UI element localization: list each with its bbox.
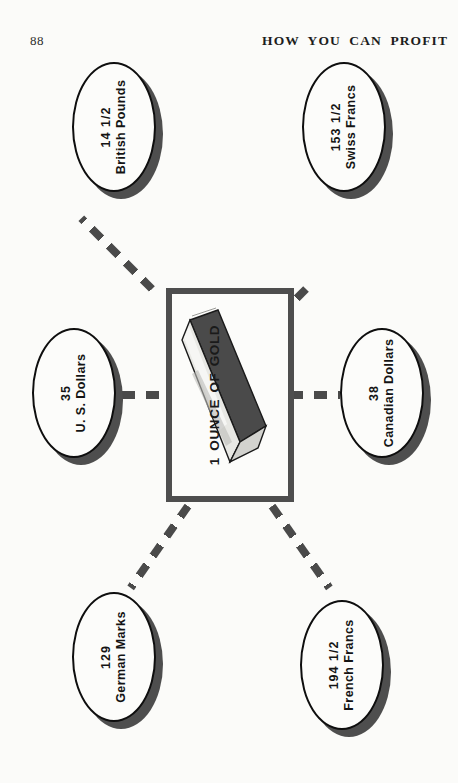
dash-stroke [290,391,340,399]
currency-name: U. S. Dollars [74,354,89,433]
currency-node-text: 153 1/2 Swiss Francs [329,85,359,170]
connector-left [122,391,170,399]
dash-stroke [269,504,333,591]
currency-node-text: 35 U. S. Dollars [59,354,89,433]
currency-node-text: 14 1/2 British Pounds [99,80,129,175]
currency-node-text: 194 1/2 French Francs [327,619,357,710]
currency-node-text: 38 Canadian Dollars [367,339,397,448]
currency-amount: 38 [367,339,382,448]
currency-name: French Francs [342,619,357,710]
connector-bottom-right [269,504,333,591]
currency-amount: 153 1/2 [329,85,344,170]
book-page: 88 HOW YOU CAN PROFIT [0,0,458,783]
connector-top-left [78,215,154,291]
running-head: HOW YOU CAN PROFIT [262,33,448,49]
currency-node-german-marks[interactable]: 129 German Marks [72,592,156,722]
center-label: 1 OUNCE OF GOLD [206,325,221,465]
currency-amount: 194 1/2 [327,619,342,710]
currency-amount: 14 1/2 [99,80,114,175]
currency-amount: 35 [59,354,74,433]
currency-name: German Marks [114,611,129,703]
currency-node-french-francs[interactable]: 194 1/2 French Francs [300,600,384,730]
currency-name: Swiss Francs [344,85,359,170]
currency-node-us-dollars[interactable]: 35 U. S. Dollars [32,328,116,458]
currency-node-text: 129 German Marks [99,611,129,703]
connector-bottom-left [127,504,191,591]
currency-node-british-pounds[interactable]: 14 1/2 British Pounds [72,62,156,192]
currency-name: Canadian Dollars [382,339,397,448]
page-number: 88 [30,33,44,49]
gold-hub-box: 1 OUNCE OF GOLD [166,288,294,502]
currency-name: British Pounds [114,80,129,175]
connector-right [290,391,340,399]
dash-stroke [127,504,191,591]
currency-amount: 129 [99,611,114,703]
dash-stroke [122,391,170,399]
dash-stroke [78,215,154,291]
currency-node-swiss-francs[interactable]: 153 1/2 Swiss Francs [302,62,386,192]
currency-node-canadian-dollars[interactable]: 38 Canadian Dollars [340,328,424,458]
